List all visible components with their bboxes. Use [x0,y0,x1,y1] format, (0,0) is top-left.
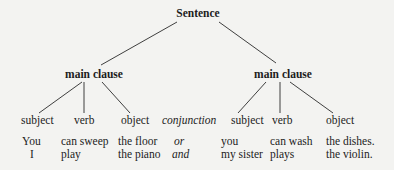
edge-right-object [290,82,333,113]
example-2-conjunction: and [172,149,189,161]
example-2-right-verb: plays [270,149,294,161]
root-node: Sentence [176,8,219,20]
left-main-clause-node: main clause [65,69,123,81]
example-2-right-object: the violin. [326,149,373,161]
example-1-conjunction: or [174,136,184,148]
edge-root-right [219,22,276,63]
right-main-clause-node: main clause [254,69,312,81]
left-verb-label: verb [74,115,94,127]
edge-right-subject [238,82,266,113]
example-2-left-verb: play [61,149,81,161]
example-1-right-subject: you [221,136,238,148]
edge-left-object [102,82,130,113]
example-1-left-subject: You [22,136,41,148]
sentence-diagram: Sentence main clause main clause subject… [0,0,394,170]
example-1-left-object: the floor [118,136,157,148]
example-1-left-verb: can sweep [61,136,109,148]
left-subject-label: subject [21,115,54,127]
edge-left-subject [39,82,82,113]
example-1-right-verb: can wash [270,136,312,148]
right-subject-label: subject [231,115,264,127]
example-2-left-object: the piano [118,149,160,161]
conjunction-label: conjunction [162,115,216,127]
edge-root-left [101,22,177,65]
left-object-label: object [121,115,149,127]
right-verb-label: verb [272,115,292,127]
example-2-right-subject: my sister [221,149,263,161]
example-1-right-object: the dishes. [326,136,375,148]
right-object-label: object [326,115,354,127]
example-2-left-subject: I [30,149,34,161]
